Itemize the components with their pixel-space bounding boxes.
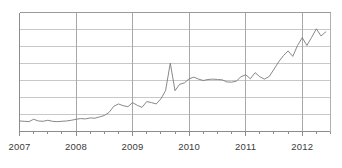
x-axis-tick-label: 2010 [178, 141, 200, 152]
line-chart: 200720082009201020112012 [0, 0, 342, 168]
x-axis-tick-label: 2007 [9, 141, 31, 152]
x-axis-tick-label: 2008 [65, 141, 87, 152]
x-axis-tick-label: 2009 [122, 141, 144, 152]
x-axis-tick-label: 2011 [235, 141, 256, 152]
x-axis-tick-label: 2012 [291, 141, 313, 152]
